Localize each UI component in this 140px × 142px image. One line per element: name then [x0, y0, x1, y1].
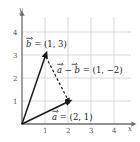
vector-a-label: a = (2, 1): [52, 110, 92, 122]
x-tick-1: 1: [43, 127, 47, 135]
y-tick-labels: 1 2 3 4: [13, 29, 18, 106]
x-tick-labels: 1 2 3 4: [43, 127, 117, 135]
difference-operator: −: [62, 65, 75, 75]
y-tick-4: 4: [13, 29, 18, 37]
vector-a-value: = (2, 1): [57, 112, 92, 122]
vector-difference-label: a − b = (1, −2): [57, 63, 123, 75]
x-tick-2: 2: [66, 127, 70, 135]
y-tick-2: 2: [13, 75, 17, 83]
vector-diagram-figure: y x 1 2 3 4 1 2 3 4 b = (1, 3): [0, 0, 140, 142]
vector-b-value: = (1, 3): [31, 39, 66, 49]
difference-value: = (1, −2): [80, 65, 123, 75]
plot-canvas: y x 1 2 3 4 1 2 3 4 b = (1, 3): [0, 0, 140, 142]
svg-text:a = (2, 1): a = (2, 1): [52, 112, 92, 122]
x-axis-label: x: [128, 125, 132, 133]
svg-text:b = (1, 3): b = (1, 3): [26, 39, 67, 49]
x-tick-3: 3: [89, 127, 93, 135]
y-tick-3: 3: [13, 52, 17, 60]
y-axis-label: y: [18, 6, 24, 14]
vector-b-label: b = (1, 3): [26, 37, 67, 49]
y-tick-1: 1: [13, 98, 17, 106]
x-tick-4: 4: [112, 127, 117, 135]
svg-text:a − b = (1, −2): a − b = (1, −2): [57, 65, 123, 75]
